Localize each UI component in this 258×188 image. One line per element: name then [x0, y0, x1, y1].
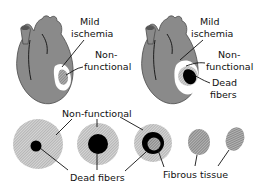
fibrous-tissue-label: Fibrous tissue — [163, 169, 228, 180]
stage-2 — [77, 123, 119, 165]
heart-1-nonfunc-label-1: Non- — [95, 49, 117, 60]
dead-leader-3 — [125, 152, 146, 171]
heart-2-nonfunc-label-1: Non- — [218, 49, 240, 60]
heart-2-nonfunc-label-2: functional — [206, 61, 253, 72]
heart-1-mild-label-2: ischemia — [71, 28, 113, 39]
heart-1-nonfunc-label-2: functional — [84, 61, 131, 72]
heart-1-aorta-opening — [21, 26, 29, 30]
fibrous-leader-3 — [218, 150, 229, 166]
stage-5-fibrous — [222, 125, 247, 154]
nonfunc-leader-1 — [56, 119, 72, 135]
heart-2-aorta-opening — [146, 26, 154, 30]
heart-2 — [142, 16, 199, 104]
stage-1 — [13, 119, 63, 169]
heart-1-mild-label-1: Mild — [80, 16, 100, 27]
dead-fibers-label: Dead fibers — [70, 172, 125, 183]
heart-1 — [17, 16, 73, 104]
stage-2-dead-core — [88, 134, 108, 154]
stage-1-dead-core — [31, 141, 42, 152]
heart-2-dead-label-2: fibers — [210, 89, 237, 100]
ischemia-diagram: Mild ischemia Non- functional Mild ische… — [0, 0, 258, 188]
heart-2-mild-label-2: ischemia — [191, 28, 233, 39]
heart-2-mild-label-1: Mild — [200, 16, 220, 27]
fibrous-leader-2 — [195, 155, 197, 166]
stage-4-fibrous — [188, 129, 210, 155]
stage-3-fibrous-center — [148, 138, 161, 151]
stages: Non-functional Dead fibers — [13, 108, 248, 183]
heart-2-dead-label-1: Dead — [212, 77, 237, 88]
stage-3 — [134, 124, 172, 162]
